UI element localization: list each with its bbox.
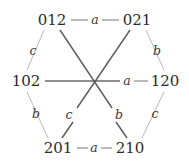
node-210[interactable]: 210 — [116, 141, 145, 156]
edge-label-201-210: a — [90, 142, 97, 155]
edge-label-012-021: a — [91, 14, 98, 27]
edge-label-102-120: a — [123, 75, 130, 88]
cayley-graph-figure: 012 021 102 120 201 210 a a a c b b c c … — [0, 0, 189, 162]
node-012[interactable]: 012 — [38, 13, 67, 28]
edge-label-012-102: c — [29, 45, 36, 58]
edge-021-201-lower — [62, 122, 73, 138]
edge-label-021-201: c — [65, 109, 72, 122]
node-102[interactable]: 102 — [12, 74, 41, 89]
edge-label-021-120: b — [153, 45, 161, 58]
edge-label-102-201: b — [32, 108, 40, 121]
node-120[interactable]: 120 — [151, 74, 180, 89]
edge-label-120-210: c — [151, 108, 158, 121]
node-021[interactable]: 021 — [123, 13, 152, 28]
center-edges — [45, 30, 148, 138]
edge-label-012-210: b — [115, 109, 123, 122]
node-201[interactable]: 201 — [44, 141, 73, 156]
edge-012-210-lower — [116, 122, 127, 138]
horizontal-edges — [71, 20, 119, 148]
